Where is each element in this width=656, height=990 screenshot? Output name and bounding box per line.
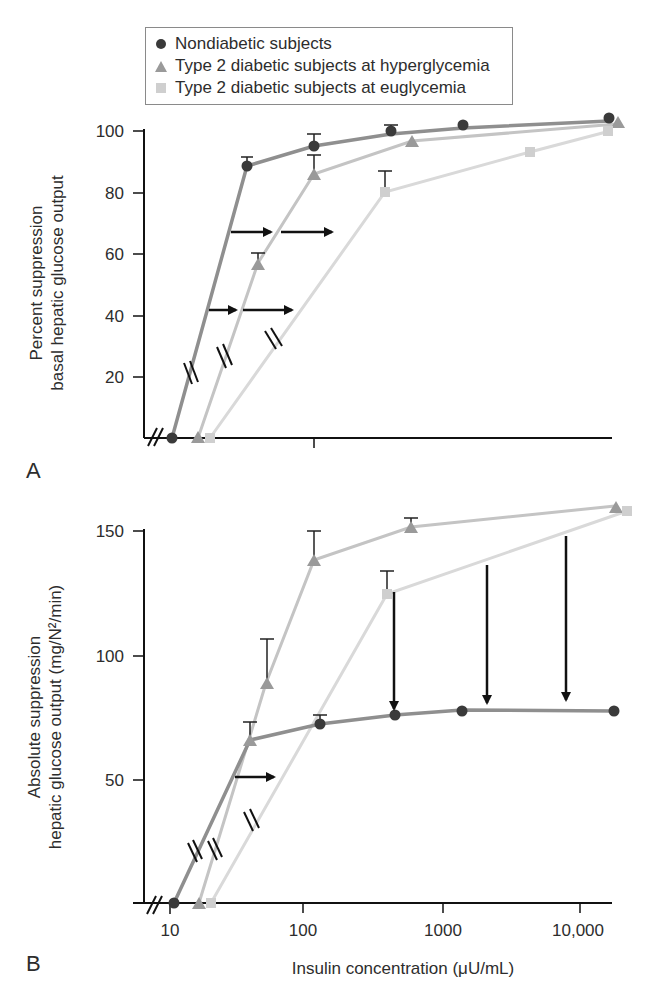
panel-b-y-title-line2: hepatic glucose output (mg/N²/min) [46,585,65,850]
panel-a: 100 80 60 40 20 Percent suppression basa… [26,113,625,484]
series-line-hyperglycemia [198,124,617,438]
square-marker-icon [154,81,168,95]
x-tick-label: 100 [289,921,317,940]
series-line-euglycemia [210,131,610,438]
panel-b-y-ticks [133,531,144,780]
panel-a-label: A [26,458,41,483]
y-tick-label: 150 [96,522,124,541]
figure-canvas: 100 80 60 40 20 Percent suppression basa… [0,0,656,990]
triangle-marker-icon [154,59,168,73]
panel-a-y-title-line2: basal hepatic glucose output [48,175,67,391]
y-tick-label: 60 [105,245,124,264]
x-tick-label: 10,000 [552,921,604,940]
y-tick-label: 20 [105,368,124,387]
x-tick-label: 1000 [424,921,462,940]
y-tick-label: 40 [105,307,124,326]
shift-arrows-b [235,536,566,777]
legend-label: Type 2 diabetic subjects at hyperglycemi… [175,56,490,76]
panel-b-markers-nondiabetic [169,706,620,909]
x-tick-labels: 10 100 1000 10,000 [161,921,604,940]
legend: Nondiabetic subjects Type 2 diabetic sub… [145,27,513,105]
y-tick-label: 50 [105,771,124,790]
series-line-nondiabetic [172,121,609,438]
legend-item-nondiabetic: Nondiabetic subjects [154,33,512,55]
panel-b-error-bars [243,518,418,738]
legend-label: Nondiabetic subjects [175,34,332,54]
circle-marker-icon [154,37,168,51]
y-tick-label: 80 [105,184,124,203]
panel-a-y-title-line1: Percent suppression [27,206,46,361]
panel-b: 150 100 50 10 100 1000 10,000 Insulin co… [25,501,632,978]
series-line-euglycemia [211,511,627,903]
panel-a-markers-euglycemia [205,126,613,443]
y-tick-label: 100 [96,122,124,141]
x-tick-label: 10 [161,921,180,940]
legend-label: Type 2 diabetic subjects at euglycemia [175,78,466,98]
panel-b-y-title-line1: Absolute suppression [25,636,44,799]
panel-b-label: B [26,951,41,976]
series-line-nondiabetic [174,710,614,903]
panel-b-markers-hyperglycemia [192,501,623,909]
panel-b-x-ticks [170,903,580,914]
panel-a-y-ticks [133,131,144,377]
legend-item-hyperglycemia: Type 2 diabetic subjects at hyperglycemi… [154,55,512,77]
panel-a-markers-nondiabetic [167,113,615,444]
panel-b-markers-euglycemia [206,506,632,908]
series-line-hyperglycemia [199,506,615,903]
axis-break-icon [147,896,162,914]
y-tick-label: 100 [96,647,124,666]
panel-a-y-tick-labels: 100 80 60 40 20 [96,122,124,387]
panel-b-y-tick-labels: 150 100 50 [96,522,124,790]
x-axis-title: Insulin concentration (μU/mL) [292,959,514,978]
legend-item-euglycemia: Type 2 diabetic subjects at euglycemia [154,77,512,99]
